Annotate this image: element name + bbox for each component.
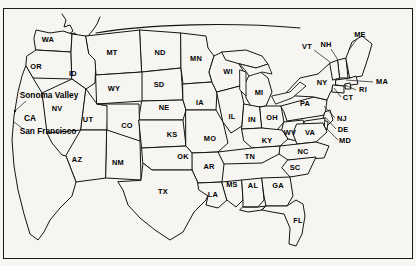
state-ME: [346, 36, 372, 78]
state-label-nm: NM: [112, 159, 124, 166]
state-label-tn: TN: [245, 153, 255, 160]
state-label-ky: KY: [262, 137, 273, 144]
state-label-ny: NY: [317, 79, 328, 86]
state-FL-panhandle: [240, 206, 266, 212]
state-label-wa: WA: [42, 36, 54, 43]
state-label-nc: NC: [297, 148, 308, 155]
state-label-me: ME: [354, 31, 366, 38]
state-label-mt: MT: [106, 49, 117, 56]
state-label-nd: ND: [154, 49, 165, 56]
state-label-nv: NV: [52, 105, 63, 112]
place-label-ca: CA: [24, 114, 36, 122]
leader-nh: [331, 49, 338, 60]
state-label-nh: NH: [320, 41, 331, 48]
state-label-mo: MO: [204, 135, 216, 142]
state-label-wi: WI: [223, 68, 232, 75]
state-label-or: OR: [30, 63, 42, 70]
state-label-al: AL: [248, 182, 258, 189]
leader-vt: [314, 50, 330, 62]
state-label-tx: TX: [158, 188, 168, 195]
state-label-id: ID: [69, 70, 77, 77]
state-label-in: IN: [248, 116, 256, 123]
state-label-wy: WY: [108, 85, 120, 92]
state-label-de: DE: [338, 126, 349, 133]
state-label-ia: IA: [196, 99, 204, 106]
state-label-ga: GA: [272, 182, 284, 189]
state-label-mi: MI: [255, 89, 264, 96]
state-label-ar: AR: [203, 163, 214, 170]
state-label-sd: SD: [154, 81, 165, 88]
state-label-md: MD: [339, 137, 351, 144]
state-label-co: CO: [121, 122, 133, 129]
state-label-ma: MA: [376, 78, 388, 85]
state-CT: [332, 85, 344, 93]
state-label-ne: NE: [159, 104, 170, 111]
state-label-ut: UT: [83, 116, 93, 123]
state-KS: [139, 120, 186, 148]
state-label-sc: SC: [290, 164, 301, 171]
state-label-az: AZ: [72, 156, 82, 163]
state-label-la: LA: [208, 191, 218, 198]
state-label-ri: RI: [359, 86, 367, 93]
state-label-wv: WV: [284, 129, 296, 136]
state-label-ms: MS: [226, 181, 238, 188]
state-label-ok: OK: [177, 153, 189, 160]
state-label-vt: VT: [302, 43, 312, 50]
state-label-pa: PA: [300, 100, 310, 107]
state-label-il: IL: [229, 113, 236, 120]
state-label-fl: FL: [293, 217, 302, 224]
state-label-va: VA: [305, 129, 315, 136]
state-label-ks: KS: [167, 131, 178, 138]
state-label-ct: CT: [343, 94, 353, 101]
state-label-nj: NJ: [337, 115, 347, 122]
place-label-sonoma-valley: Sonoma Valley: [20, 91, 79, 99]
place-label-san-francisco: San Francisco: [20, 127, 77, 135]
us-map-figure: WAORIDMTNDMNWYSDNEIAWIMINVUTCOKSMOILINOH…: [0, 0, 416, 266]
state-label-mn: MN: [190, 55, 202, 62]
state-label-oh: OH: [266, 114, 278, 121]
sonoma-valley-marker: [14, 110, 16, 112]
